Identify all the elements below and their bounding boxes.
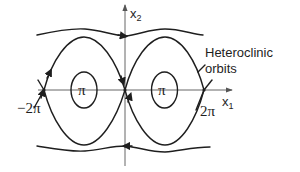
annotation-orbits: orbits	[205, 61, 237, 76]
annotation-heteroclinic: Heteroclinic	[205, 45, 273, 60]
flow-arrow-top-orbit	[118, 35, 124, 36]
flow-arrow-center-upper	[121, 76, 123, 82]
flow-arrow-left-lower	[41, 92, 43, 98]
center-label-pi-right: π	[158, 82, 166, 98]
right-saddle-tail	[204, 80, 212, 90]
left-saddle-tail	[38, 80, 44, 90]
x2-axis-label: x2	[130, 6, 142, 23]
lower-heteroclinic-orbit-left	[44, 90, 125, 145]
lower-heteroclinic-orbit-right	[125, 90, 204, 145]
annotation-leader-line	[198, 65, 205, 72]
x1-axis-label: x1	[222, 94, 234, 111]
saddle-point-right	[202, 88, 205, 91]
center-label-pi-left: π	[78, 82, 86, 98]
bottom-rotation-orbit	[37, 146, 210, 152]
saddle-point-origin	[123, 88, 126, 91]
tick-label-neg-two-pi: −2π	[17, 100, 41, 116]
phase-portrait-diagram: x2 x1 −2π 2π π π Heteroclinic orbits	[0, 0, 300, 172]
top-orbit-crossing	[123, 34, 126, 37]
saddle-point-left	[42, 88, 45, 91]
tick-label-two-pi: 2π	[200, 103, 216, 119]
flow-arrow-center-lower	[128, 96, 130, 102]
bottom-orbit-crossing	[123, 144, 126, 147]
